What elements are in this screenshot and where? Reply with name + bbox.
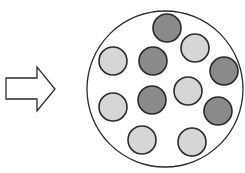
right-arrow-icon — [6, 67, 55, 111]
light-particle-icon — [174, 77, 202, 105]
dark-particle-icon — [204, 97, 232, 125]
dark-particle-icon — [139, 47, 167, 75]
mixture-diagram — [0, 0, 245, 173]
light-particle-icon — [178, 128, 206, 156]
light-particle-icon — [128, 126, 156, 154]
dark-particle-icon — [153, 14, 181, 42]
dark-particle-icon — [138, 86, 166, 114]
light-particle-icon — [99, 47, 127, 75]
dark-particle-icon — [210, 57, 238, 85]
light-particle-icon — [181, 34, 209, 62]
light-particle-icon — [99, 93, 127, 121]
